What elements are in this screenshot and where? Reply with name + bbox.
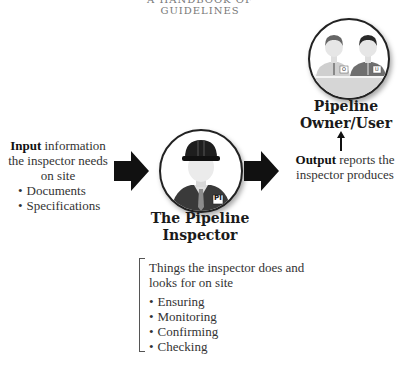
input-keyword: Input [10,138,41,153]
input-item: Specifications [18,198,112,213]
owner-title-line2: Owner/User [290,115,402,132]
activities-intro: Things the inspector does and looks for … [149,260,319,290]
inspector-title-line2: Inspector [140,227,260,244]
input-intro: Input information the inspector needs on… [4,138,112,183]
activities-list: Things the inspector does and looks for … [143,260,319,354]
arrow-up-icon [337,131,345,151]
owner-title: Pipeline Owner/User [290,98,402,132]
input-list: Documents Specifications [4,183,112,213]
inspector-title-line1: The Pipeline [140,210,260,227]
arrow-right-icon [244,151,280,191]
output-description: Output reports the inspector produces [288,152,402,182]
input-description: Input information the inspector needs on… [4,138,112,213]
page-header-partial: A HANDBOOK OF GUIDELINES [120,0,280,16]
output-keyword: Output [296,152,336,167]
inspector-badge: PI [214,194,222,202]
owner-and-user-icon [310,20,388,98]
activity-item: Confirming [149,324,319,339]
inspector-title: The Pipeline Inspector [140,210,260,244]
user-badge: U [375,66,379,72]
input-item: Documents [18,183,112,198]
inspector-with-hard-hat-icon [161,131,241,211]
activity-item: Ensuring [149,294,319,309]
activity-item: Checking [149,339,319,354]
owner-badge: O [342,66,346,72]
activity-item: Monitoring [149,309,319,324]
owner-avatar: O U [308,18,390,100]
activities-items: Ensuring Monitoring Confirming Checking [149,294,319,354]
arrow-right-icon [114,151,150,191]
inspector-avatar: PI [159,129,243,213]
owner-title-line1: Pipeline [290,98,402,115]
